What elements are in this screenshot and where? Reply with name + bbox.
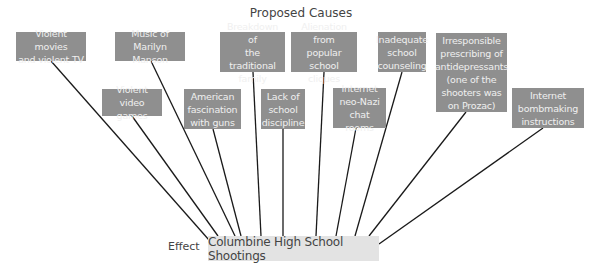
- line-alienation: [316, 72, 324, 236]
- cause-counseling: Inadequateschoolcounseling: [378, 32, 426, 72]
- cause-video-games: Violent videogames: [102, 89, 162, 116]
- cause-neo-nazi: Internetneo-Nazichat rooms: [333, 88, 386, 128]
- line-bombmaking: [379, 128, 543, 244]
- cause-antidepressants: Irresponsibleprescribing ofantidepressan…: [436, 33, 507, 112]
- line-marilyn-manson: [151, 61, 235, 236]
- cause-marilyn-manson: Music ofMarilyn Manson: [115, 32, 185, 61]
- cause-guns: Americanfascinationwith guns: [184, 89, 241, 129]
- line-family-breakdown: [253, 72, 261, 236]
- cause-alienation: Alienation frompopular schoolcliques: [291, 32, 357, 72]
- line-video-games: [132, 116, 218, 236]
- line-neo-nazi: [336, 128, 356, 236]
- cause-discipline: Lack ofschooldiscipline: [261, 89, 305, 129]
- effect-box: Columbine High School Shootings: [208, 236, 379, 261]
- cause-bombmaking: Internetbombmakinginstructions: [512, 88, 584, 128]
- cause-violent-movies: Violent moviesand violent TV: [16, 32, 86, 61]
- effect-label: Effect: [168, 240, 200, 253]
- cause-family-breakdown: Breakdown ofthe traditionalfamily: [220, 32, 285, 72]
